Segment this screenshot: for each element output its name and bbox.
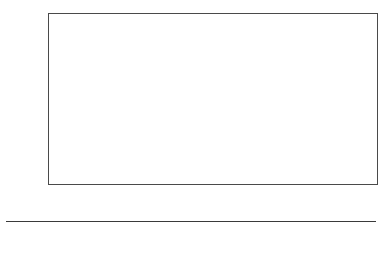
y-axis-tick-labels (8, 0, 46, 270)
plot-area (48, 13, 378, 185)
bar-group (49, 14, 377, 184)
legend-divider (6, 221, 376, 222)
stacked-bar-chart (0, 0, 382, 270)
